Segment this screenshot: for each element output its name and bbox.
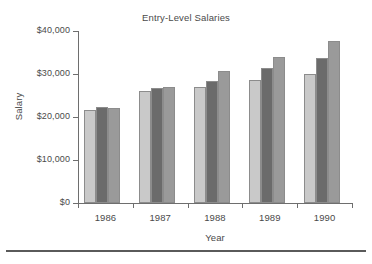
y-axis-tick-label: $0 (60, 197, 70, 207)
bar (249, 80, 261, 203)
bar (328, 41, 340, 203)
bar (151, 88, 163, 203)
bar (218, 71, 230, 203)
bar-chart-plot: $0$10,000$20,000$30,000$40,000 198619871… (0, 0, 372, 264)
bar (206, 81, 218, 203)
y-axis-tick-label: $20,000 (37, 111, 70, 121)
x-axis-tick-label: 1986 (78, 212, 133, 223)
y-axis-tick (73, 31, 79, 32)
bar (316, 58, 328, 203)
x-axis-tick-label: 1988 (188, 212, 243, 223)
bottom-rule (6, 250, 366, 252)
bar (84, 110, 96, 203)
x-axis-tick (78, 203, 79, 208)
bar (273, 57, 285, 203)
x-axis-tick-label: 1990 (297, 212, 352, 223)
x-axis-tick (133, 203, 134, 208)
bar (108, 108, 120, 203)
y-axis-tick-label: $30,000 (37, 68, 70, 78)
x-axis-tick (242, 203, 243, 208)
x-axis-tick (352, 203, 353, 208)
figure-page: Entry-Level Salaries $0$10,000$20,000$30… (0, 0, 372, 264)
bar (304, 74, 316, 203)
y-axis-tick (73, 74, 79, 75)
x-axis-title: Year (78, 232, 352, 243)
bar (163, 87, 175, 203)
x-axis-tick-label: 1987 (133, 212, 188, 223)
x-axis-tick (297, 203, 298, 208)
y-axis-title: Salary (13, 77, 24, 137)
y-axis-tick-label: $10,000 (37, 154, 70, 164)
bar (139, 91, 151, 203)
x-axis-line (78, 203, 352, 204)
bar (96, 107, 108, 203)
y-axis-tick (73, 117, 79, 118)
x-axis-tick-label: 1989 (242, 212, 297, 223)
bar (194, 87, 206, 203)
bar (261, 68, 273, 203)
y-axis-tick-label: $40,000 (37, 25, 70, 35)
y-axis-tick (73, 160, 79, 161)
x-axis-tick (188, 203, 189, 208)
